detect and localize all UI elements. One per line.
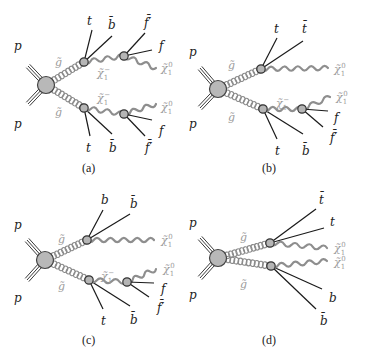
- gluino-decay-vertex: [80, 58, 88, 66]
- gluino-decay-vertex: [83, 236, 91, 244]
- proton-label: p: [14, 218, 22, 232]
- gluon-loop: [231, 249, 237, 257]
- quark-label: b̄: [109, 139, 117, 155]
- quark-line: [270, 209, 316, 243]
- gluon-loop: [227, 79, 234, 87]
- feynman-diagram-figure: ppg̃tb̄χ̃1−χ̃10f̄′fg̃tb̄χ̃1−χ̃10ff̄′(a)p…: [0, 0, 365, 364]
- chargino-decay-vertex: [298, 105, 306, 113]
- chargino-decay-vertex: [120, 110, 128, 118]
- gluino-label: g̃: [55, 56, 62, 69]
- quark-label: b: [101, 193, 109, 207]
- gluino-label: g̃: [228, 59, 235, 72]
- gluon-loop: [238, 74, 245, 82]
- gluino-decay-vertex: [257, 65, 265, 73]
- gluino-label: g̃: [240, 231, 247, 244]
- chargino-label: χ̃1−: [96, 91, 110, 107]
- gluino-label: g̃: [228, 111, 235, 124]
- gluon-loop: [241, 72, 248, 80]
- quark-label: t: [101, 314, 106, 328]
- quark-line: [261, 41, 303, 69]
- fermion-label: f̄′: [156, 299, 164, 315]
- fermion-label: f: [333, 111, 341, 125]
- proton-label: p: [14, 117, 22, 131]
- quark-label: t: [275, 144, 280, 158]
- panel-c: ppg̃bb̄χ̃10g̃tb̄χ̃1−χ̃10ff̄′(c): [14, 193, 175, 347]
- neutralino-label: χ̃10: [160, 100, 173, 116]
- gluon-loop: [243, 246, 249, 254]
- chargino-decay-vertex: [123, 278, 131, 286]
- gluon-loop: [62, 265, 69, 273]
- gluon-loop: [54, 250, 61, 258]
- gluon-loop: [231, 77, 238, 85]
- gluino-decay-vertex: [259, 105, 267, 113]
- neutralino-label: χ̃10: [333, 255, 346, 271]
- proton-label: p: [189, 216, 197, 230]
- fermion-label: f̄′: [144, 139, 152, 155]
- panel-d: ppg̃t̄tχ̃10g̃bb̄χ̃10(d): [189, 191, 346, 347]
- neutralino-label: χ̃10: [160, 61, 173, 77]
- quark-line: [271, 266, 316, 309]
- gluino-decay-vertex: [80, 104, 88, 112]
- panel-caption: (c): [82, 333, 95, 347]
- production-vertex: [37, 252, 54, 269]
- quark-line: [270, 228, 324, 243]
- fermion-label: f: [158, 39, 166, 53]
- gluon-loop: [234, 76, 241, 84]
- gluon-loop: [64, 245, 71, 253]
- neutralino-label: χ̃10: [162, 262, 175, 278]
- proton-label: p: [189, 45, 197, 59]
- quark-label: t̄: [319, 191, 325, 207]
- neutralino-label: χ̃10: [160, 233, 173, 249]
- gluon-loop: [73, 270, 80, 278]
- fermion-label: f̄′: [143, 14, 151, 30]
- panel-a: ppg̃tb̄χ̃1−χ̃10f̄′fg̃tb̄χ̃1−χ̃10ff̄′(a): [14, 14, 173, 175]
- fermion-label: f: [158, 124, 166, 138]
- gluino-label: g̃: [58, 280, 65, 293]
- quark-label: t: [274, 22, 279, 36]
- quark-label: t: [330, 215, 335, 229]
- proton-label: p: [189, 117, 197, 131]
- neutralino-label: χ̃10: [335, 90, 348, 106]
- fermion-label: f̄′: [329, 129, 337, 145]
- gluon-loop: [57, 248, 64, 256]
- panel-caption: (d): [262, 333, 276, 347]
- quark-label: t: [87, 14, 92, 28]
- quark-label: b̄: [130, 195, 138, 211]
- chargino-decay-vertex: [120, 52, 128, 60]
- quark-label: t: [86, 141, 91, 155]
- panel-b: ppg̃tt̄χ̃10g̃tb̄χ̃1−χ̃10ff̄′(b): [189, 20, 348, 175]
- neutralino-line: [261, 66, 328, 71]
- gluon-loop: [246, 99, 253, 107]
- gluon-loop: [254, 243, 260, 251]
- gluon-loop: [245, 71, 252, 79]
- gluino-decay-vertex: [267, 262, 275, 270]
- neutralino-line: [124, 104, 156, 115]
- quark-label: b: [329, 291, 337, 305]
- gluon-loop: [239, 247, 245, 255]
- neutralino-line: [270, 242, 327, 249]
- neutralino-line: [124, 56, 156, 69]
- panel-caption: (a): [82, 161, 95, 175]
- gluon-loop: [246, 245, 252, 253]
- gluon-loop: [75, 240, 82, 248]
- gluon-loop: [71, 242, 78, 250]
- gluino-label: g̃: [55, 106, 62, 119]
- gluon-loop: [68, 243, 75, 251]
- panel-caption: (b): [262, 161, 276, 175]
- production-vertex: [210, 81, 227, 98]
- neutralino-line: [87, 238, 154, 242]
- quark-label: b̄: [130, 311, 138, 327]
- gluon-loop: [235, 248, 241, 256]
- quark-label: t̄: [302, 20, 308, 36]
- quark-line: [84, 30, 92, 62]
- gluino-decay-vertex: [266, 239, 274, 247]
- proton-label: p: [189, 288, 197, 302]
- production-vertex: [38, 77, 55, 94]
- gluino-decay-vertex: [85, 276, 93, 284]
- quark-label: b̄: [320, 312, 328, 328]
- neutralino-line: [271, 259, 327, 268]
- neutralino-label: χ̃10: [333, 62, 346, 78]
- quark-line: [271, 266, 322, 289]
- gluon-loop: [248, 69, 255, 77]
- gluino-label: g̃: [240, 278, 247, 291]
